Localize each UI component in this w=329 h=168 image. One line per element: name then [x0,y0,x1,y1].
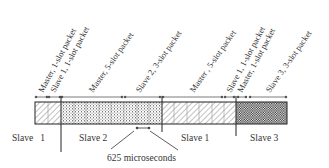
region-label-slave-3: Slave 3 [250,133,278,143]
slot-duration-label: 625 microseconds [107,153,176,163]
packet-dimension-lines [35,96,287,98]
slot-duration-callout [111,127,178,150]
region-label-slave-1-second: Slave 1 [181,133,209,143]
piconet-timing-diagram: Master, 1-slot packet Slave 1, 1-slot pa… [0,0,329,168]
label-master-5slot-a: Master, 5-slot packet [86,30,135,95]
segment-slave-2 [61,102,162,124]
segment-slave-3 [236,102,287,124]
region-label-slave-2: Slave 2 [79,133,107,143]
label-slave2-3slot: Slave 2, 3-slot packet [133,28,184,94]
region-labels: Slave 1 Slave 2 Slave 1 Slave 3 [12,133,278,143]
region-label-slave-1-first: Slave 1 [12,133,45,143]
timeline-bar [35,96,287,152]
packet-labels: Master, 1-slot packet Slave 1, 1-slot pa… [36,24,314,94]
